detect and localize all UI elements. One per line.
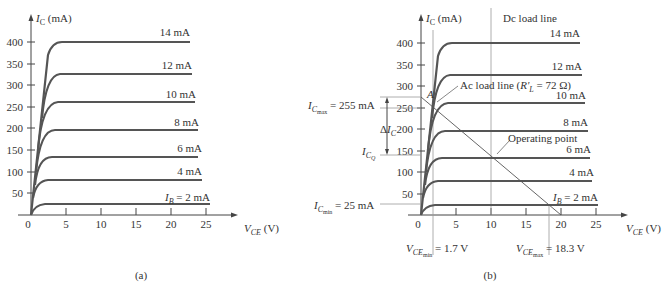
svg-text:6 mA: 6 mA xyxy=(177,142,202,154)
svg-text:20: 20 xyxy=(556,218,568,230)
panel-label-b: (b) xyxy=(484,269,497,282)
x-tick-labels-a: 0 5 10 15 20 25 xyxy=(25,218,212,230)
svg-text:250: 250 xyxy=(7,101,24,113)
svg-text:0: 0 xyxy=(415,218,421,230)
svg-text:5: 5 xyxy=(63,218,69,230)
svg-text:14 mA: 14 mA xyxy=(550,27,580,39)
svg-text:300: 300 xyxy=(397,80,414,92)
svg-text:350: 350 xyxy=(7,58,24,70)
svg-text:10: 10 xyxy=(486,218,498,230)
svg-text:10 mA: 10 mA xyxy=(166,88,196,100)
svg-text:4 mA: 4 mA xyxy=(177,165,202,177)
svg-text:10: 10 xyxy=(96,218,108,230)
arrow-up-icon xyxy=(385,97,389,103)
svg-text:6 mA: 6 mA xyxy=(566,143,591,155)
svg-text:50: 50 xyxy=(402,188,414,200)
svg-text:100: 100 xyxy=(7,166,24,178)
icq-label: ICQ xyxy=(361,145,376,161)
svg-text:15: 15 xyxy=(521,218,533,230)
x-axis-arrow-icon xyxy=(621,213,628,218)
svg-text:12 mA: 12 mA xyxy=(162,59,192,71)
svg-text:200: 200 xyxy=(7,122,24,134)
svg-text:20: 20 xyxy=(166,218,178,230)
y-axis-title-a: IC (mA) xyxy=(35,12,72,27)
point-a-label: A xyxy=(426,88,434,100)
svg-text:50: 50 xyxy=(12,187,24,199)
ib-label-b: IB = 2 mA xyxy=(552,191,598,206)
vce-min-label: VCEmin = 1.7 V xyxy=(406,242,468,258)
svg-text:0: 0 xyxy=(25,218,31,230)
x-ticks-a xyxy=(66,208,206,215)
delta-ic-label: ΔIC xyxy=(380,123,397,138)
svg-text:25: 25 xyxy=(591,218,603,230)
x-axis-title-b: VCE (V) xyxy=(626,222,661,237)
svg-text:400: 400 xyxy=(397,37,414,49)
x-axis-arrow-icon xyxy=(231,213,238,218)
y-tick-labels-b: 400 350 300 250 200 150 100 50 xyxy=(397,37,414,200)
y-axis-arrow-icon xyxy=(419,14,424,21)
svg-text:8 mA: 8 mA xyxy=(174,116,199,128)
x-tick-labels-b: 0 5 10 15 20 25 xyxy=(415,218,602,230)
svg-text:300: 300 xyxy=(7,79,24,91)
svg-text:150: 150 xyxy=(7,144,24,156)
svg-text:5: 5 xyxy=(453,218,459,230)
arrow-down-icon xyxy=(385,149,389,155)
ic-max-label: ICmax = 255 mA xyxy=(307,99,375,115)
figure: 400 350 300 250 200 150 100 50 0 5 10 15… xyxy=(0,0,665,294)
svg-text:4 mA: 4 mA xyxy=(569,166,594,178)
svg-text:12 mA: 12 mA xyxy=(552,60,582,72)
svg-text:400: 400 xyxy=(7,36,24,48)
operating-point-label: Operating point xyxy=(508,132,577,144)
svg-text:14 mA: 14 mA xyxy=(160,26,190,38)
ac-load-line-label: Ac load line (R'L = 72 Ω) xyxy=(460,79,571,94)
x-axis-title-a: VCE (V) xyxy=(244,222,279,237)
chart-b: 400 350 300 250 200 150 100 50 0 5 10 15… xyxy=(307,8,661,282)
svg-text:15: 15 xyxy=(131,218,143,230)
svg-text:8 mA: 8 mA xyxy=(563,116,588,128)
panel-label-a: (a) xyxy=(135,269,148,282)
svg-text:200: 200 xyxy=(397,123,414,135)
svg-text:100: 100 xyxy=(397,166,414,178)
chart-a: 400 350 300 250 200 150 100 50 0 5 10 15… xyxy=(7,12,280,282)
y-axis-arrow-icon xyxy=(29,14,34,21)
svg-text:25: 25 xyxy=(201,218,213,230)
x-ticks-b xyxy=(456,208,596,215)
ib-curve-labels-b: 14 mA 12 mA 10 mA 8 mA 6 mA 4 mA IB = 2 … xyxy=(550,27,598,206)
y-tick-labels-a: 400 350 300 250 200 150 100 50 xyxy=(7,36,24,199)
dc-load-line-label: Dc load line xyxy=(503,12,557,24)
ic-min-label: ICmin = 25 mA xyxy=(313,199,374,215)
y-axis-title-b: IC (mA) xyxy=(425,12,462,27)
vce-max-label: VCEmax = 18.3 V xyxy=(516,242,585,258)
svg-text:350: 350 xyxy=(397,59,414,71)
